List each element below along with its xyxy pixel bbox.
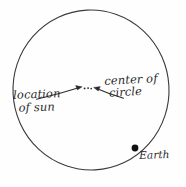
label-earth: Earth — [139, 149, 170, 161]
earth-marker-dot — [132, 145, 139, 152]
label-location-of-sun-line2: of sun — [18, 101, 61, 114]
arrowhead-right-icon — [94, 87, 101, 91]
center-dots — [84, 87, 92, 89]
label-center-of-circle: center of circle — [104, 73, 159, 99]
arrowhead-left-icon — [76, 86, 83, 90]
figure-canvas: location of sun center of circle Earth — [0, 0, 186, 187]
label-location-of-sun: location of sun — [13, 88, 61, 114]
